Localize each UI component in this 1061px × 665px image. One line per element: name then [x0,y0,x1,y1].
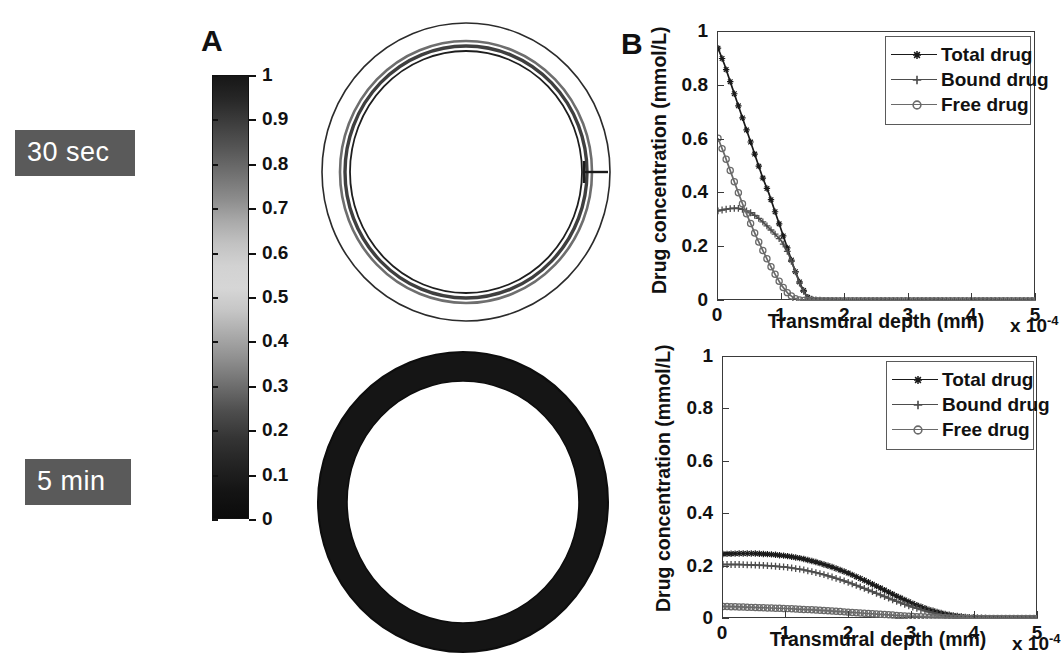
colorbar-tick-inner [212,119,218,121]
y-tick-mark [717,139,724,140]
x-exponent-power: -4 [1047,313,1059,328]
y-tick-label: 0.6 [682,128,708,150]
x-axis-title-5min: Transmural depth (mm) [770,628,987,651]
y-tick-label: 0 [697,289,708,311]
colorbar-tick [249,519,256,521]
legend-item[interactable]: Bound drug [892,392,1026,417]
legend-item[interactable]: Free drug [892,417,1026,442]
colorbar-tick-inner [212,430,218,432]
colorbar-tick-inner [212,386,218,388]
y-tick-mark [722,513,729,514]
colorbar-tick-label: 0.7 [262,197,288,219]
colorbar-tick-inner [212,475,218,477]
colorbar-tick [249,253,256,255]
chart-transmural-30sec: 00.20.40.60.81012345 Transmural depth (m… [620,10,1056,340]
legend-label: Total drug [942,369,1033,391]
colorbar-tick-label: 0.4 [262,330,288,352]
x-tick-mark [911,611,912,618]
colorbar-tick-inner [212,208,218,210]
x-tick-mark [908,293,909,300]
colorbar-tick [249,341,256,343]
y-tick-label: 0.4 [687,502,713,524]
x-tick-mark [974,611,975,618]
colorbar-tick [249,475,256,477]
legend-label: Bound drug [942,394,1050,416]
x-exponent-power: -4 [1049,631,1061,646]
colorbar-tick [249,297,256,299]
colorbar-tick-label: 0.1 [262,464,288,486]
x-tick-mark [717,293,718,300]
y-tick-mark [717,85,724,86]
panel-letter-a: A [201,26,223,56]
y-tick-mark [722,566,729,567]
y-tick-label: 0.8 [682,74,708,96]
y-tick-mark [722,408,729,409]
y-tick-label: 0.6 [687,450,713,472]
y-tick-label: 0 [702,607,713,629]
x-tick-mark [971,293,972,300]
y-tick-mark [722,618,729,619]
chart-transmural-5min: 00.20.40.60.81012345 Transmural depth (m… [620,340,1056,665]
time-label-5min: 5 min [25,459,131,505]
x-tick-mark [1035,293,1036,300]
colorbar-tick-inner [212,297,218,299]
x-exponent-mantissa: x 10 [1010,315,1047,336]
y-tick-mark [722,356,729,357]
legend-label: Free drug [941,94,1029,116]
legend-item[interactable]: Free drug [891,92,1023,117]
colorbar-tick-label: 0.6 [262,242,288,264]
x-tick-mark [1037,611,1038,618]
colorbar-tick-label: 0.8 [262,153,288,175]
x-axis-title-30sec: Transmural depth (mm) [768,310,985,333]
legend-marker-plus-icon [892,398,938,412]
legend-item[interactable]: Bound drug [891,67,1023,92]
time-label-30sec: 30 sec [15,130,135,176]
colorbar-tick-label: 1 [262,64,273,86]
artery-cross-section-5min [313,348,613,656]
colorbar-tick [249,386,256,388]
y-tick-label: 1 [702,345,713,367]
x-tick-mark [722,611,723,618]
colorbar-tick [249,164,256,166]
x-tick-mark [844,293,845,300]
colorbar-tick-label: 0.9 [262,108,288,130]
y-tick-label: 1 [697,20,708,42]
lumen-outline-30sec [350,51,582,293]
artery-cross-section-30sec [316,16,616,328]
y-tick-label: 0.2 [687,555,713,577]
x-tick-mark [785,611,786,618]
y-tick-mark [717,300,724,301]
x-tick-label: 0 [712,304,723,326]
legend-marker-asterisk-icon [892,373,938,387]
colorbar-tick-inner [212,253,218,255]
colorbar-tick-inner [212,164,218,166]
legend-marker-circle-icon [892,423,938,437]
x-tick-mark [781,293,782,300]
x-exponent-mantissa: x 10 [1012,633,1049,654]
y-tick-mark [717,192,724,193]
colorbar-tick-inner [212,75,218,77]
legend-label: Bound drug [941,69,1049,91]
x-exponent-30sec: x 10-4 [1010,313,1059,337]
y-tick-label: 0.8 [687,397,713,419]
y-tick-label: 0.2 [682,235,708,257]
legend-label: Free drug [942,419,1030,441]
colorbar-tick [249,75,256,77]
legend-item[interactable]: Total drug [891,42,1023,67]
x-tick-label: 0 [717,622,728,644]
legend-5min: Total drugBound drugFree drug [886,361,1034,450]
x-tick-mark [848,611,849,618]
y-tick-label: 0.4 [682,181,708,203]
legend-label: Total drug [941,44,1032,66]
colorbar-tick [249,208,256,210]
colorbar-tick-label: 0.5 [262,286,288,308]
legend-30sec: Total drugBound drugFree drug [885,36,1031,125]
legend-item[interactable]: Total drug [892,367,1026,392]
colorbar-tick-label: 0.2 [262,419,288,441]
y-tick-mark [722,461,729,462]
legend-marker-plus-icon [891,73,937,87]
colorbar-tick [249,430,256,432]
colorbar-tick-inner [212,519,218,521]
legend-marker-circle-icon [891,98,937,112]
legend-marker-asterisk-icon [891,48,937,62]
